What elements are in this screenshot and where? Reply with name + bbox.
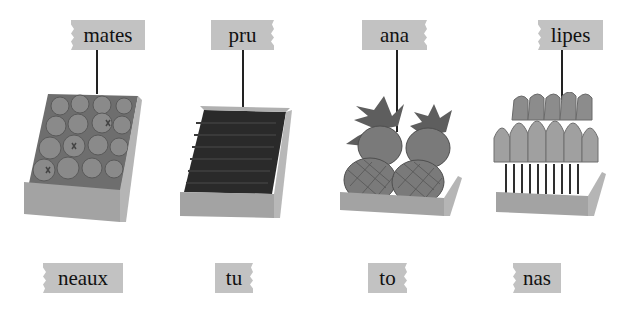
label-stem-mates — [96, 50, 98, 94]
prune-crate-image — [176, 106, 294, 218]
label-mates[interactable]: mates — [71, 20, 145, 50]
label-ana[interactable]: ana — [362, 20, 427, 50]
label-tu[interactable]: tu — [215, 263, 253, 293]
label-stem-pru — [242, 50, 244, 108]
tomato-crate-image — [20, 92, 145, 224]
label-lipes[interactable]: lipes — [538, 20, 603, 50]
pineapple-crate-image — [334, 96, 464, 216]
label-neaux[interactable]: neaux — [43, 263, 123, 293]
label-nas[interactable]: nas — [513, 263, 561, 293]
label-pru[interactable]: pru — [211, 20, 274, 50]
tulip-crate-image — [484, 92, 610, 216]
label-to[interactable]: to — [368, 263, 407, 293]
